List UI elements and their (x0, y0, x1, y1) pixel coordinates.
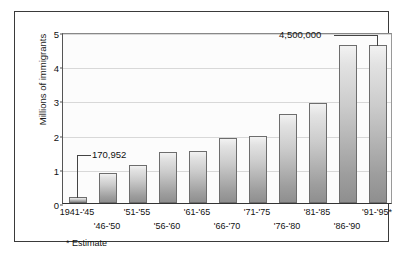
y-axis-title: Millions of immigrants (37, 15, 48, 145)
chart-outer-frame: Millions of immigrants 012345 1941-'45'4… (14, 11, 389, 242)
x-axis-tick-label: 1941-'45 (60, 207, 95, 217)
bar (189, 151, 206, 203)
chart-figure: Millions of immigrants 012345 1941-'45'4… (0, 0, 403, 259)
y-axis-tick-mark (60, 34, 63, 35)
bar (339, 45, 356, 203)
x-axis-tick-label: '86-'90 (334, 221, 360, 231)
x-axis-tick-label: '91-'95* (362, 207, 392, 217)
bar (159, 152, 176, 203)
y-axis-tick-mark (60, 102, 63, 103)
x-axis-tick-label: '76-'80 (274, 221, 300, 231)
plot-area: 012345 (62, 33, 392, 204)
y-axis-tick-mark (60, 170, 63, 171)
y-axis-tick-label: 2 (54, 131, 59, 142)
y-axis-tick-label: 1 (54, 165, 59, 176)
bar (219, 138, 236, 203)
y-axis-tick-mark (60, 68, 63, 69)
x-axis-tick-label: '66-'70 (214, 221, 240, 231)
y-axis-tick-label: 0 (54, 200, 59, 211)
x-axis-tick-label: '61-'65 (184, 207, 210, 217)
y-axis-tick-mark (60, 136, 63, 137)
footnote-estimate: * Estimate (66, 238, 107, 248)
bar (99, 173, 116, 203)
annotation-label-4500000: 4,500,000 (279, 29, 321, 40)
annotation-leader-vertical (377, 35, 378, 46)
y-axis-tick-label: 3 (54, 97, 59, 108)
y-axis-tick-mark (60, 205, 63, 206)
annotation-leader-vertical (77, 155, 78, 198)
annotation-leader-horizontal (77, 155, 91, 156)
x-axis-tick-label: '51-'55 (124, 207, 150, 217)
y-axis-tick-label: 4 (54, 63, 59, 74)
x-axis-tick-label: '56-'60 (154, 221, 180, 231)
annotation-leader-horizontal (334, 35, 377, 36)
y-axis-tick-label: 5 (54, 29, 59, 40)
annotation-label-170952: 170,952 (92, 149, 126, 160)
x-axis-tick-label: '46-'50 (94, 221, 120, 231)
bar (129, 165, 146, 203)
bar (309, 103, 326, 203)
bar (249, 136, 266, 203)
x-axis-tick-label: '81-'85 (304, 207, 330, 217)
x-axis-tick-label: '71-'75 (244, 207, 270, 217)
bar (279, 114, 296, 203)
bar (369, 45, 386, 203)
